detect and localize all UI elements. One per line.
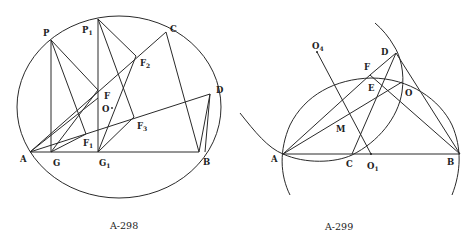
- segment-pf1: [51, 40, 86, 134]
- label-g: G: [53, 158, 60, 168]
- label-b: B: [203, 157, 210, 167]
- segment-db: [396, 53, 460, 154]
- segment-fb: [370, 75, 460, 154]
- label-e: E: [368, 83, 375, 93]
- segment-gf1: [51, 134, 86, 152]
- segment-pf: [51, 40, 98, 90]
- segment-ao: [283, 82, 402, 154]
- label-d: D: [381, 47, 389, 57]
- circumcircle: [17, 16, 221, 198]
- segment-o4o1: [317, 52, 371, 154]
- label-f2: F2: [140, 58, 150, 69]
- label-f: F: [364, 62, 370, 72]
- arc-circle-ab: [282, 78, 459, 195]
- label-p1: P1: [82, 25, 93, 36]
- label-f1: F1: [83, 138, 93, 149]
- label-f3: F3: [137, 121, 147, 132]
- caption-a299: A-299: [324, 221, 353, 232]
- label-a: A: [270, 154, 278, 164]
- point-o1: [370, 153, 372, 155]
- label-f: F: [104, 91, 110, 101]
- segment-p1f3: [98, 19, 134, 117]
- label-b: B: [447, 157, 454, 167]
- geometry-figures: P P1 C D F2 F O F3 F1 A G G1 B A-298: [0, 0, 472, 239]
- label-c: C: [170, 24, 177, 34]
- segment-db: [199, 94, 210, 152]
- label-p: P: [43, 28, 50, 38]
- label-o: O: [405, 88, 413, 98]
- label-m: M: [336, 124, 346, 134]
- label-o1: O1: [367, 161, 379, 172]
- label-o: O: [102, 104, 110, 114]
- segment-db2: [205, 94, 210, 152]
- label-o4: O4: [312, 41, 324, 52]
- center-o-dot: [111, 107, 113, 109]
- figure-a298: P P1 C D F2 F O F3 F1 A G G1 B A-298: [17, 16, 224, 231]
- segment-dc: [352, 53, 396, 154]
- label-a: A: [19, 154, 27, 164]
- label-d: D: [216, 85, 224, 95]
- caption-a298: A-298: [109, 220, 138, 231]
- segment-cb: [166, 32, 199, 152]
- point-o4: [316, 51, 318, 53]
- label-g1: G1: [99, 158, 110, 169]
- label-c: C: [346, 159, 353, 169]
- figure-a299: D F O4 E O M A C O1 B A-299: [240, 23, 460, 232]
- segment-g1f3: [98, 117, 134, 152]
- segment-p1f2: [98, 19, 136, 56]
